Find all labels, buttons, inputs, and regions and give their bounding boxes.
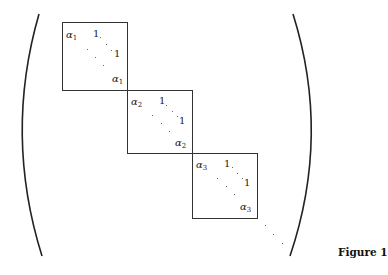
block-1-bottom-right-alpha: α1 bbox=[112, 74, 123, 87]
dot bbox=[87, 49, 88, 50]
dot bbox=[234, 194, 235, 195]
dot bbox=[169, 131, 170, 132]
dot bbox=[106, 44, 107, 45]
block-3-superdiag-right: 1 bbox=[244, 178, 250, 188]
block-1-top-left-alpha: α1 bbox=[66, 30, 77, 43]
block-1-superdiag-top: 1 bbox=[93, 29, 99, 39]
block-2-bottom-right-alpha: α2 bbox=[175, 138, 186, 151]
dot bbox=[152, 115, 153, 116]
dot bbox=[232, 167, 233, 168]
dot bbox=[217, 178, 218, 179]
block-3-top-left-alpha: α3 bbox=[196, 160, 207, 173]
dot bbox=[172, 111, 173, 112]
block-3-superdiag-top: 1 bbox=[224, 159, 230, 169]
dot bbox=[166, 105, 167, 106]
dot bbox=[161, 123, 162, 124]
block-2-top-left-alpha: α2 bbox=[131, 97, 142, 110]
dot bbox=[100, 37, 101, 38]
jordan-block-3: α3 1 1 α3 bbox=[192, 153, 258, 219]
right-parenthesis bbox=[290, 14, 311, 256]
dot bbox=[103, 65, 104, 66]
block-1-superdiag-right: 1 bbox=[114, 49, 120, 59]
figure-caption: Figure 1 bbox=[338, 246, 388, 258]
dot bbox=[237, 173, 238, 174]
block-2-superdiag-right: 1 bbox=[179, 116, 185, 126]
jordan-block-2: α2 1 1 α2 bbox=[127, 90, 193, 154]
left-parenthesis bbox=[22, 14, 42, 256]
block-2-superdiag-top: 1 bbox=[159, 96, 165, 106]
jordan-block-1: α1 1 1 α1 bbox=[62, 22, 128, 91]
dot bbox=[95, 57, 96, 58]
dot bbox=[226, 186, 227, 187]
dot bbox=[111, 50, 112, 51]
block-3-bottom-right-alpha: α3 bbox=[240, 202, 251, 215]
